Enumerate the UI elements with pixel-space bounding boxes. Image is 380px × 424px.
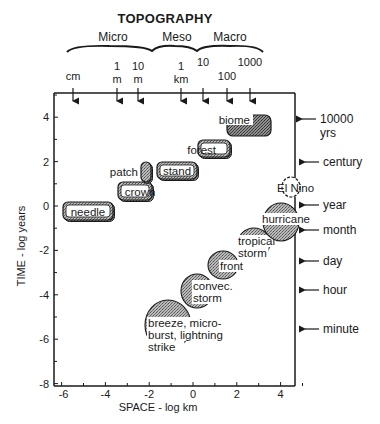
- y-tick-label: 2: [43, 156, 49, 168]
- atmospheric-events: breeze, micro-burst, lightningstrikeconv…: [145, 177, 316, 353]
- unit-crown: crown: [118, 182, 155, 202]
- space-markers: cm1m10m1km101001000: [66, 56, 263, 101]
- y-tick-label: 4: [43, 111, 49, 123]
- time-marker: minute: [305, 322, 359, 336]
- diagram-title: TOPOGRAPHY: [117, 11, 212, 26]
- space-marker: 10m: [132, 60, 144, 101]
- scale-brace: [67, 46, 263, 52]
- space-marker-label: 1: [178, 60, 184, 72]
- space-marker-label: 10: [197, 56, 209, 68]
- y-tick-label: 0: [43, 200, 49, 212]
- unit-forest: forest: [187, 140, 231, 159]
- space-marker-label: m: [112, 73, 121, 85]
- unit-patch: patch: [110, 162, 153, 184]
- unit-stand: stand: [157, 162, 199, 181]
- y-tick-label: -8: [39, 378, 49, 390]
- diagram-canvas: TOPOGRAPHY MicroMesoMacro cm1m10m1km1010…: [0, 0, 380, 424]
- time-marker-label: century: [323, 155, 362, 169]
- space-marker-label: km: [174, 73, 189, 85]
- space-marker: cm: [66, 70, 81, 101]
- ecological-units: needlecrownpatchstandforestbiome: [63, 113, 271, 222]
- x-tick-label: 0: [190, 388, 196, 400]
- y-axis-label: TIME - log years: [15, 205, 27, 286]
- space-marker-label: 1: [114, 60, 120, 72]
- unit-label: crown: [125, 186, 156, 198]
- space-marker: 1m: [112, 60, 121, 101]
- space-marker: 10: [197, 56, 209, 101]
- scale-label-micro: Micro: [98, 30, 128, 44]
- y-tick-label: -4: [39, 289, 49, 301]
- space-marker-label: 10: [132, 60, 144, 72]
- space-marker-label: cm: [66, 70, 81, 82]
- unit-label: needle: [71, 206, 106, 218]
- unit-label: biome: [219, 114, 250, 126]
- event-hurricane: hurricane: [261, 203, 316, 241]
- space-marker-label: 100: [218, 70, 236, 82]
- y-tick-label: -6: [39, 333, 49, 345]
- time-marker-label: day: [323, 254, 342, 268]
- space-marker: 1000: [238, 56, 262, 101]
- y-tick-label: -2: [39, 244, 49, 256]
- event-label: strike: [148, 341, 175, 353]
- space-time-diagram: TOPOGRAPHY MicroMesoMacro cm1m10m1km1010…: [0, 0, 380, 424]
- x-tick-label: -4: [101, 388, 111, 400]
- time-marker-label: minute: [323, 322, 359, 336]
- time-marker: hour: [305, 283, 347, 297]
- event-label: burst, lightning: [148, 329, 223, 341]
- space-marker: 1km: [174, 60, 189, 101]
- x-axis-label: SPACE - log km: [119, 401, 198, 413]
- time-marker-label: year: [323, 198, 346, 212]
- x-tick-label: 4: [278, 388, 284, 400]
- event-label: storm: [238, 247, 267, 259]
- unit-label: patch: [110, 166, 138, 178]
- x-tick-label: -6: [59, 388, 69, 400]
- scale-label-macro: Macro: [213, 30, 247, 44]
- time-marker-label: hour: [323, 283, 347, 297]
- space-marker-label: m: [133, 73, 142, 85]
- unit-biome: biome: [219, 113, 271, 136]
- time-marker-label: yrs: [320, 126, 336, 140]
- event-label: front: [220, 260, 244, 272]
- event-label: convec.: [193, 280, 233, 292]
- unit-label: forest: [187, 144, 217, 156]
- unit-label: stand: [163, 165, 191, 177]
- time-marker-label: month: [323, 223, 356, 237]
- space-marker: 100: [218, 70, 236, 101]
- event-convec.: convec.storm: [181, 274, 235, 308]
- time-marker: century: [305, 155, 362, 169]
- event-label: El Nino: [277, 182, 314, 194]
- time-marker: day: [305, 254, 342, 268]
- event-label: breeze, micro-: [148, 317, 222, 329]
- topography-scales: MicroMesoMacro: [98, 30, 247, 44]
- time-marker: 10000yrs: [302, 112, 354, 140]
- scale-label-meso: Meso: [162, 30, 192, 44]
- unit-needle: needle: [63, 202, 115, 222]
- event-el: El Nino: [277, 177, 314, 197]
- unit-shape: [141, 162, 151, 182]
- x-tick-label: 2: [234, 388, 240, 400]
- space-marker-label: 1000: [238, 56, 262, 68]
- x-tick-label: -2: [144, 388, 154, 400]
- time-marker: month: [305, 223, 356, 237]
- event-label: hurricane: [262, 213, 310, 225]
- event-label: storm: [193, 292, 222, 304]
- time-marker: year: [305, 198, 346, 212]
- time-marker-label: 10000: [320, 112, 354, 126]
